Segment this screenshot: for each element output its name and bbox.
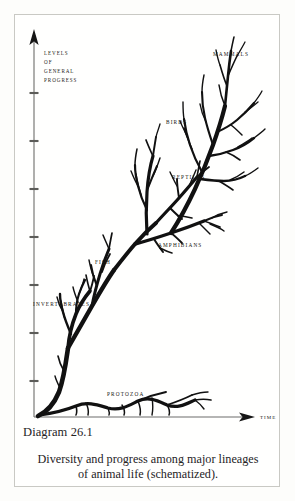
invertebrates-tip-2 bbox=[86, 275, 90, 291]
mammals-apex bbox=[225, 51, 231, 106]
birds-main bbox=[146, 156, 153, 234]
mammals-side-3b bbox=[245, 102, 258, 112]
tree-group bbox=[38, 37, 265, 416]
birds-tip-1 bbox=[153, 137, 156, 156]
y-axis-label-line-2: OF bbox=[44, 59, 52, 65]
protozoa-tip-2 bbox=[192, 392, 208, 395]
invertebrates-sub-mid-b bbox=[79, 279, 84, 294]
evolution-tree-figure: LEVELS OF GENERAL PROGRESS TIME bbox=[14, 14, 280, 487]
y-axis-label-line-4: PROGRESS bbox=[44, 77, 77, 83]
mammals-side-3c bbox=[254, 91, 262, 103]
trunk-upper bbox=[114, 223, 156, 270]
birds-tip-4 bbox=[156, 124, 160, 137]
lineage-labels: MAMMALS BIRDS REPTILES AMPHIBIANS FISH I… bbox=[33, 51, 249, 397]
y-axis-label: LEVELS OF GENERAL PROGRESS bbox=[44, 50, 77, 83]
amphibians-tip-5 bbox=[199, 223, 210, 234]
label-reptiles: REPTILES bbox=[172, 174, 205, 180]
protozoa-main-stem bbox=[40, 399, 195, 415]
caption-line-2: of animal life (schematized). bbox=[22, 467, 274, 482]
protozoa-twig-6 bbox=[152, 398, 153, 415]
label-birds: BIRDS bbox=[166, 119, 187, 125]
mammals-left-2b bbox=[202, 75, 204, 92]
invertebrates-sub-mid-a bbox=[73, 287, 78, 302]
invertebrates-sub-left-1 bbox=[60, 294, 71, 334]
protozoa-twig-1 bbox=[76, 406, 77, 415]
x-axis-label: TIME bbox=[260, 415, 276, 420]
axes-group bbox=[29, 29, 255, 422]
mammals-apex-f bbox=[219, 85, 225, 106]
label-fish: FISH bbox=[95, 259, 111, 265]
reptiles-sub-2 bbox=[177, 179, 179, 198]
mammals-left-1b bbox=[183, 102, 184, 119]
protozoa-twig-5 bbox=[138, 401, 140, 415]
caption-line-1: Diversity and progress among major linea… bbox=[22, 452, 274, 467]
figure-caption: Diversity and progress among major linea… bbox=[22, 452, 274, 482]
amphibians-tip-3 bbox=[212, 212, 227, 218]
trunk-base bbox=[38, 348, 68, 416]
fish-tip-2 bbox=[103, 235, 109, 249]
protozoa-tip-1 bbox=[195, 399, 211, 400]
diagram-number: Diagram 26.1 bbox=[23, 425, 93, 440]
birds-tip-2 bbox=[146, 140, 153, 156]
mammals-apex-c bbox=[231, 37, 234, 51]
label-protozoa: PROTOZOA bbox=[107, 391, 144, 397]
invertebrates-lower-twig-2 bbox=[55, 376, 60, 388]
y-axis-label-line-3: GENERAL bbox=[44, 68, 74, 74]
y-axis-label-line-1: LEVELS bbox=[44, 50, 69, 56]
mammals-side-2a bbox=[226, 152, 240, 160]
invertebrates-lower-twig-1 bbox=[58, 356, 64, 371]
mammals-apex-a bbox=[220, 65, 227, 86]
amphibians-tip-2 bbox=[204, 221, 220, 227]
protozoa-tip-3 bbox=[195, 400, 204, 409]
mammals-side-1a bbox=[219, 181, 233, 190]
mammals-side-1c bbox=[245, 168, 258, 176]
figure-page: LEVELS OF GENERAL PROGRESS TIME bbox=[0, 0, 295, 501]
lineage-invertebrates-branches bbox=[55, 275, 94, 388]
birds-sub-2a bbox=[153, 158, 160, 176]
label-mammals: MAMMALS bbox=[213, 51, 249, 57]
fish-tip-1 bbox=[109, 233, 112, 249]
mammals-side-2c bbox=[254, 129, 265, 138]
label-amphibians: AMPHIBIANS bbox=[158, 242, 202, 248]
birds-tip-3 bbox=[135, 149, 137, 165]
lineage-birds-branches bbox=[131, 124, 160, 234]
mammals-side-3a bbox=[231, 125, 242, 135]
label-invertebrates: INVERTEBRATES bbox=[33, 301, 90, 307]
trunk-middle bbox=[68, 270, 114, 348]
